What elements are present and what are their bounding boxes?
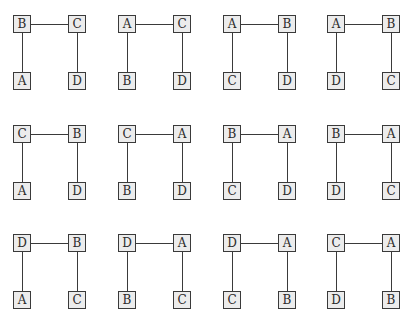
node-top-right: B <box>68 234 86 252</box>
node-bottom-left: B <box>118 182 136 200</box>
edge-top <box>345 134 382 135</box>
edge-left <box>336 33 337 72</box>
node-bottom-left: A <box>13 72 31 90</box>
node-bottom-right: C <box>68 291 86 309</box>
edge-right <box>287 33 288 72</box>
edge-top <box>31 24 68 25</box>
edge-right <box>77 33 78 72</box>
node-top-right: A <box>278 234 296 252</box>
tree-diagram-4: A B D C <box>327 15 417 111</box>
node-top-left: B <box>223 125 241 143</box>
node-top-right: C <box>68 15 86 33</box>
edge-left <box>232 252 233 291</box>
tree-diagram-2: A C B D <box>118 15 208 111</box>
diagram-grid: B C A D A C B D A B C D A B D C C B A <box>0 0 419 320</box>
node-bottom-right: C <box>382 72 400 90</box>
edge-top <box>136 24 173 25</box>
edge-right <box>287 252 288 291</box>
edge-top <box>345 24 382 25</box>
node-top-left: D <box>13 234 31 252</box>
node-bottom-left: A <box>13 182 31 200</box>
node-top-right: A <box>382 234 400 252</box>
node-bottom-left: B <box>118 72 136 90</box>
node-bottom-right: D <box>173 182 191 200</box>
edge-right <box>77 252 78 291</box>
node-top-left: D <box>118 234 136 252</box>
tree-diagram-12: C A D B <box>327 234 417 320</box>
edge-right <box>182 252 183 291</box>
edge-left <box>336 143 337 182</box>
edge-left <box>232 143 233 182</box>
tree-diagram-11: D A C B <box>223 234 313 320</box>
node-bottom-left: D <box>327 291 345 309</box>
node-top-right: A <box>278 125 296 143</box>
edge-left <box>127 33 128 72</box>
node-bottom-right: C <box>382 182 400 200</box>
node-bottom-left: C <box>223 72 241 90</box>
node-bottom-left: C <box>223 291 241 309</box>
node-bottom-right: B <box>382 291 400 309</box>
node-bottom-right: C <box>173 291 191 309</box>
tree-diagram-3: A B C D <box>223 15 313 111</box>
node-top-left: B <box>327 125 345 143</box>
tree-diagram-9: D B A C <box>13 234 103 320</box>
node-top-right: A <box>382 125 400 143</box>
edge-top <box>31 243 68 244</box>
node-top-right: A <box>173 125 191 143</box>
edge-right <box>391 33 392 72</box>
node-top-right: B <box>278 15 296 33</box>
edge-top <box>31 134 68 135</box>
node-bottom-right: D <box>68 182 86 200</box>
node-bottom-left: B <box>118 291 136 309</box>
node-top-left: C <box>118 125 136 143</box>
edge-top <box>136 243 173 244</box>
node-top-right: A <box>173 234 191 252</box>
node-top-right: B <box>68 125 86 143</box>
node-bottom-right: D <box>68 72 86 90</box>
node-top-left: A <box>118 15 136 33</box>
edge-right <box>182 33 183 72</box>
tree-diagram-6: C A B D <box>118 125 208 221</box>
edge-left <box>232 33 233 72</box>
tree-diagram-10: D A B C <box>118 234 208 320</box>
node-top-left: A <box>223 15 241 33</box>
node-top-left: D <box>223 234 241 252</box>
edge-left <box>127 143 128 182</box>
node-top-right: C <box>173 15 191 33</box>
edge-right <box>287 143 288 182</box>
edge-top <box>241 24 278 25</box>
node-bottom-left: C <box>223 182 241 200</box>
node-bottom-right: D <box>278 72 296 90</box>
edge-left <box>336 252 337 291</box>
edge-left <box>22 143 23 182</box>
edge-top <box>345 243 382 244</box>
edge-top <box>241 134 278 135</box>
node-bottom-left: D <box>327 182 345 200</box>
edge-right <box>391 252 392 291</box>
tree-diagram-7: B A C D <box>223 125 313 221</box>
node-bottom-right: D <box>173 72 191 90</box>
edge-right <box>182 143 183 182</box>
edge-top <box>241 243 278 244</box>
node-top-left: A <box>327 15 345 33</box>
edge-top <box>136 134 173 135</box>
node-top-left: B <box>13 15 31 33</box>
edge-left <box>127 252 128 291</box>
node-bottom-right: B <box>278 291 296 309</box>
node-bottom-left: A <box>13 291 31 309</box>
node-top-right: B <box>382 15 400 33</box>
node-top-left: C <box>327 234 345 252</box>
edge-left <box>22 33 23 72</box>
tree-diagram-8: B A D C <box>327 125 417 221</box>
tree-diagram-5: C B A D <box>13 125 103 221</box>
node-bottom-right: D <box>278 182 296 200</box>
edge-left <box>22 252 23 291</box>
edge-right <box>391 143 392 182</box>
tree-diagram-1: B C A D <box>13 15 103 111</box>
edge-right <box>77 143 78 182</box>
node-bottom-left: D <box>327 72 345 90</box>
node-top-left: C <box>13 125 31 143</box>
